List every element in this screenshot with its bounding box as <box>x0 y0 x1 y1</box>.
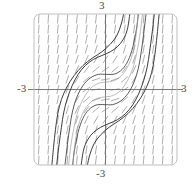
x-axis-right-label: 3 <box>181 83 187 94</box>
slope-field-canvas <box>0 0 195 185</box>
slope-field-figure: 3 -3 3 -3 <box>0 0 195 185</box>
axes-lines <box>28 14 183 165</box>
y-axis-top-label: 3 <box>99 0 105 11</box>
y-axis-bottom-label: -3 <box>96 168 105 179</box>
x-axis-left-label: -3 <box>17 83 26 94</box>
